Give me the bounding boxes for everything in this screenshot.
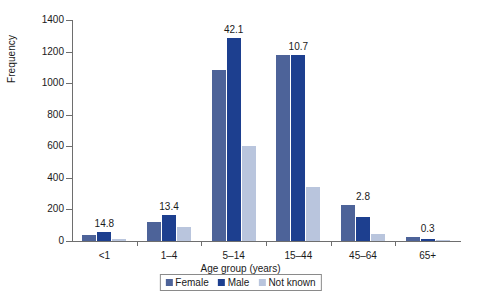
bar[interactable] bbox=[212, 70, 226, 241]
bar-group bbox=[276, 20, 320, 241]
legend-item[interactable]: Male bbox=[218, 277, 250, 288]
bar[interactable] bbox=[276, 55, 290, 241]
bar[interactable] bbox=[82, 235, 96, 241]
x-axis-tick-label: 5–14 bbox=[204, 250, 264, 261]
x-axis-tick-label: 45–64 bbox=[333, 250, 393, 261]
bar[interactable] bbox=[177, 227, 191, 241]
bar[interactable] bbox=[436, 240, 450, 241]
legend-label: Male bbox=[228, 277, 250, 288]
legend-item[interactable]: Female bbox=[165, 277, 208, 288]
bar[interactable] bbox=[306, 187, 320, 241]
bar[interactable] bbox=[242, 146, 256, 241]
x-axis-tick-label: 15–44 bbox=[268, 250, 328, 261]
y-axis-tick-label: 800 bbox=[18, 110, 64, 120]
bar-value-label: 10.7 bbox=[278, 41, 318, 52]
bar-group bbox=[82, 20, 126, 241]
bar-value-label: 14.8 bbox=[84, 218, 124, 229]
x-axis-tick bbox=[395, 241, 396, 246]
y-axis-tick-label: 600 bbox=[18, 141, 64, 151]
y-axis-tick-label: 1000 bbox=[18, 78, 64, 88]
bar-value-label: 42.1 bbox=[214, 24, 254, 35]
x-axis-tick-label: 1–4 bbox=[139, 250, 199, 261]
bar[interactable] bbox=[291, 55, 305, 241]
legend-label: Not known bbox=[268, 277, 315, 288]
y-axis-tick-label: 400 bbox=[18, 173, 64, 183]
y-axis-tick-label: 1400 bbox=[18, 15, 64, 25]
x-axis-title: Age group (years) bbox=[0, 263, 481, 274]
bar-group bbox=[406, 20, 450, 241]
bar-value-label: 2.8 bbox=[343, 191, 383, 202]
bar[interactable] bbox=[371, 234, 385, 241]
bar[interactable] bbox=[162, 215, 176, 241]
legend-item[interactable]: Not known bbox=[258, 277, 315, 288]
bar-group bbox=[212, 20, 256, 241]
legend-swatch-icon bbox=[165, 279, 172, 286]
bar[interactable] bbox=[406, 237, 420, 241]
bar[interactable] bbox=[147, 222, 161, 241]
legend-label: Female bbox=[175, 277, 208, 288]
y-axis-tick-label: 0 bbox=[18, 236, 64, 246]
legend-swatch-icon bbox=[258, 279, 265, 286]
bar-value-label: 0.3 bbox=[408, 223, 448, 234]
x-axis-tick-label: <1 bbox=[74, 250, 134, 261]
legend-swatch-icon bbox=[218, 279, 225, 286]
x-axis-tick-label: 65+ bbox=[398, 250, 458, 261]
bar-chart: Frequency 0200400600800100012001400 <11–… bbox=[0, 0, 481, 305]
bar[interactable] bbox=[341, 205, 355, 241]
bar-group bbox=[341, 20, 385, 241]
bar[interactable] bbox=[112, 239, 126, 241]
bar[interactable] bbox=[227, 38, 241, 241]
x-axis-tick bbox=[266, 241, 267, 246]
plot-area bbox=[72, 20, 460, 241]
bar-value-label: 13.4 bbox=[149, 201, 189, 212]
bar[interactable] bbox=[97, 232, 111, 241]
y-axis-title: Frequency bbox=[6, 14, 22, 104]
legend: FemaleMaleNot known bbox=[159, 274, 321, 291]
y-axis-tick-label: 200 bbox=[18, 204, 64, 214]
x-axis-tick bbox=[201, 241, 202, 246]
y-axis-tick-label: 1200 bbox=[18, 47, 64, 57]
bar[interactable] bbox=[356, 217, 370, 241]
x-axis-tick bbox=[331, 241, 332, 246]
x-axis-tick bbox=[137, 241, 138, 246]
bar[interactable] bbox=[421, 239, 435, 241]
